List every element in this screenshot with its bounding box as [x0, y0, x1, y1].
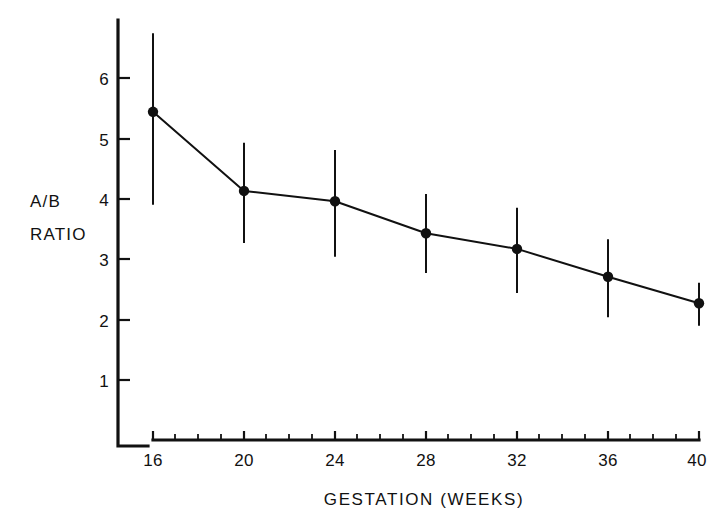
data-point-marker	[148, 107, 158, 117]
x-tick-label-16: 16	[143, 451, 163, 470]
data-point-marker	[421, 228, 431, 238]
y-tick-label-5: 5	[99, 131, 109, 150]
y-axis-title-line1: A/B	[30, 192, 61, 211]
x-tick-label-24: 24	[325, 451, 345, 470]
y-tick-label-2: 2	[99, 312, 109, 331]
x-tick-label-36: 36	[598, 451, 618, 470]
data-point-marker	[330, 196, 340, 206]
data-series-group	[148, 33, 704, 325]
x-tick-label-28: 28	[416, 451, 436, 470]
x-tick-labels: 16 20 24 28 32 36 40	[143, 451, 707, 470]
data-point-marker	[512, 244, 522, 254]
ab-ratio-line-chart: 6 5 4 3 2 1 A/B RATIO	[0, 0, 725, 522]
y-tick-label-3: 3	[99, 251, 109, 270]
y-tick-label-4: 4	[99, 191, 109, 210]
x-tick-label-20: 20	[234, 451, 254, 470]
x-tick-label-32: 32	[507, 451, 527, 470]
data-point-marker	[603, 272, 613, 282]
y-axis-ticks	[118, 78, 130, 380]
y-tick-label-6: 6	[99, 70, 109, 89]
chart-figure: 6 5 4 3 2 1 A/B RATIO	[0, 0, 725, 522]
data-point-marker	[239, 186, 249, 196]
data-point-marker	[694, 298, 704, 308]
y-axis-spine	[118, 20, 148, 446]
y-tick-label-1: 1	[99, 372, 109, 391]
y-axis-title-line2: RATIO	[30, 225, 87, 244]
y-tick-labels: 6 5 4 3 2 1	[99, 70, 109, 391]
x-tick-label-40: 40	[687, 451, 707, 470]
x-axis-title: GESTATION (WEEKS)	[324, 490, 524, 509]
